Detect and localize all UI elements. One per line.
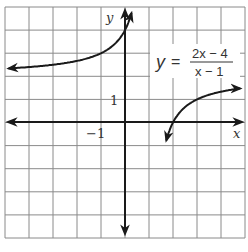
curve-right-branch bbox=[166, 89, 240, 141]
equation-numerator: 2x − 4 bbox=[192, 46, 228, 61]
y-tick-label-1: 1 bbox=[110, 93, 118, 108]
equation-lhs: y bbox=[154, 52, 166, 72]
rational-function-graph: y x 1 −1 y = 2x − 4 x − 1 bbox=[0, 0, 248, 252]
axes bbox=[8, 10, 242, 234]
x-axis-label: x bbox=[233, 126, 241, 141]
y-axis-label: y bbox=[105, 10, 114, 25]
equation-label: y = 2x − 4 x − 1 bbox=[150, 44, 240, 79]
equation-equals: = bbox=[171, 53, 180, 70]
equation-denominator: x − 1 bbox=[195, 64, 224, 79]
x-tick-label-neg1: −1 bbox=[86, 126, 105, 141]
